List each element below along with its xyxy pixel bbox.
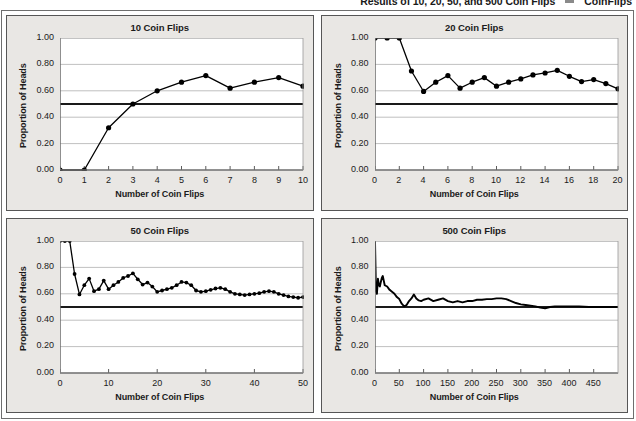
y-axis-label: Proportion of Heads [333,266,343,351]
x-tick-label: 12 [515,175,525,185]
x-tick-label: 3 [130,175,135,185]
y-tick-label: 0.00 [17,164,54,174]
header-bar: Results of 10, 20, 50, and 500 Coin Flip… [0,0,636,10]
x-tick-label: 18 [588,175,598,185]
x-tick-label: 50 [394,378,404,388]
y-tick-label: 1.00 [332,235,369,245]
x-tick-label: 50 [298,378,308,388]
x-tick-label: 5 [179,175,184,185]
x-tick-label: 8 [469,175,474,185]
chart-panel-10-coin-flips[interactable]: 10 Coin Flips 0.000.200.400.600.801.0001… [6,15,314,211]
x-tick-label: 40 [249,378,259,388]
y-tick-label: 0.00 [17,367,54,377]
y-axis-label: Proportion of Heads [18,63,28,148]
x-axis-label: Number of Coin Flips [7,392,313,402]
x-tick-label: 0 [57,378,62,388]
x-tick-label: 0 [57,175,62,185]
x-tick-label: 30 [201,378,211,388]
x-tick-label: 100 [416,378,431,388]
y-tick-label: 1.00 [17,32,54,42]
x-tick-label: 0 [372,378,377,388]
x-tick-label: 4 [155,175,160,185]
y-tick-label: 1.00 [332,32,369,42]
plot-canvas [60,241,304,374]
y-axis-label: Proportion of Heads [333,63,343,148]
x-tick-label: 4 [421,175,426,185]
x-tick-label: 250 [488,378,503,388]
x-tick-label: 20 [152,378,162,388]
figure-header-title: Results of 10, 20, 50, and 500 Coin Flip… [360,0,555,7]
x-tick-label: 20 [612,175,622,185]
x-tick-label: 200 [464,378,479,388]
plot-canvas [60,38,304,171]
x-tick-label: 150 [440,378,455,388]
document-name-label: CoinFlips [584,0,632,7]
x-tick-label: 9 [276,175,281,185]
x-tick-label: 2 [396,175,401,185]
x-tick-label: 6 [445,175,450,185]
x-tick-label: 10 [491,175,501,185]
x-axis-label: Number of Coin Flips [7,189,313,199]
x-tick-label: 300 [513,378,528,388]
y-tick-label: 1.00 [17,235,54,245]
x-tick-label: 16 [564,175,574,185]
chart-panel-500-coin-flips[interactable]: 500 Coin Flips 0.000.200.400.600.801.000… [321,218,629,414]
x-axis-label: Number of Coin Flips [322,189,628,199]
x-tick-label: 8 [252,175,257,185]
plot-canvas [375,38,619,171]
chart-panel-50-coin-flips[interactable]: 50 Coin Flips 0.000.200.400.600.801.0001… [6,218,314,414]
separator-icon [565,0,574,3]
x-axis-label: Number of Coin Flips [322,392,628,402]
figure-frame: 10 Coin Flips 0.000.200.400.600.801.0001… [1,10,634,419]
x-tick-label: 14 [540,175,550,185]
x-tick-label: 400 [561,378,576,388]
plot-canvas [375,241,619,374]
x-tick-label: 1 [82,175,87,185]
x-tick-label: 7 [228,175,233,185]
x-tick-label: 350 [537,378,552,388]
y-tick-label: 0.00 [332,164,369,174]
chart-panel-20-coin-flips[interactable]: 20 Coin Flips 0.000.200.400.600.801.0002… [321,15,629,211]
x-tick-label: 2 [106,175,111,185]
x-tick-label: 0 [372,175,377,185]
x-tick-label: 6 [203,175,208,185]
y-tick-label: 0.00 [332,367,369,377]
x-tick-label: 10 [104,378,114,388]
x-tick-label: 10 [298,175,308,185]
header-inner: Results of 10, 20, 50, and 500 Coin Flip… [360,0,632,7]
chart-panel-grid: 10 Coin Flips 0.000.200.400.600.801.0001… [2,11,633,418]
y-axis-label: Proportion of Heads [18,266,28,351]
x-tick-label: 450 [586,378,601,388]
